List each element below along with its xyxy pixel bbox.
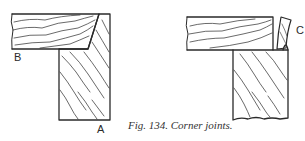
corner-joints-figure: B A C Fig. 134. Corner joints. (0, 0, 305, 141)
label-c: C (296, 25, 304, 36)
offcut-c (277, 17, 291, 49)
board-b-horizontal (11, 14, 99, 49)
butt-corner-joint (186, 17, 291, 120)
vertical-board (233, 45, 288, 120)
figure-caption: Fig. 134. Corner joints. (128, 119, 233, 131)
label-b: B (14, 52, 21, 63)
horizontal-board (186, 17, 273, 50)
mitred-corner-joint (11, 14, 110, 120)
label-a: A (97, 124, 104, 135)
